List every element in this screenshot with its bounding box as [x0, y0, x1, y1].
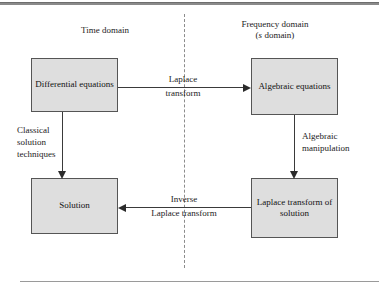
node-laplace-transform-of-solution: Laplace transform of solution	[251, 178, 338, 238]
node-differential-equations: Differential equations	[31, 58, 118, 112]
edge-label-classical-line1: Classical	[17, 125, 50, 135]
edge-label-algebraic-manipulation: Algebraic manipulation	[302, 130, 350, 154]
edge-label-laplace-transform: Laplace . transform	[141, 73, 225, 99]
node-laplace-transform-of-solution-label: Laplace transform of solution	[252, 197, 337, 220]
frequency-domain-header: Frequency domain (s domain)	[205, 19, 345, 41]
edge-label-laplace-transform-below: transform	[141, 87, 225, 99]
edge-label-inverse-laplace-transform: Inverse . Laplace transform	[124, 193, 244, 219]
top-rule-divider	[0, 2, 379, 5]
edge-classical-solution-line	[62, 112, 63, 172]
edge-label-classical-solution-techniques: Classical solution techniques	[17, 124, 56, 160]
edge-label-classical-line2: solution	[17, 137, 46, 147]
node-algebraic-equations: Algebraic equations	[251, 58, 338, 115]
node-solution-label: Solution	[59, 200, 90, 212]
edge-label-classical-line3: techniques	[17, 149, 56, 159]
frequency-domain-label: Frequency domain	[241, 19, 308, 29]
node-differential-equations-label: Differential equations	[35, 79, 114, 91]
node-solution: Solution	[31, 178, 118, 234]
time-domain-header: Time domain	[55, 25, 155, 36]
laplace-transform-flow-diagram: Time domain Frequency domain (s domain) …	[0, 0, 379, 289]
s-domain-sublabel: (s domain)	[256, 30, 295, 40]
edge-algebraic-manipulation-line	[294, 115, 295, 172]
bottom-rule-divider	[20, 281, 379, 282]
domain-separator-dashed-line	[184, 14, 185, 268]
edge-label-laplace-transform-above: Laplace	[141, 73, 225, 85]
edge-label-inverse-above: Inverse	[124, 193, 244, 205]
edge-label-inverse-below: Laplace transform	[124, 207, 244, 219]
edge-label-manipulation-line2: manipulation	[302, 143, 350, 153]
time-domain-label: Time domain	[81, 25, 129, 35]
edge-label-manipulation-line1: Algebraic	[302, 131, 337, 141]
node-algebraic-equations-label: Algebraic equations	[258, 81, 330, 93]
arrow-down-icon-classical-solution	[58, 171, 66, 179]
arrow-down-icon-algebraic-manipulation	[290, 171, 298, 179]
arrow-right-icon-laplace-transform	[243, 84, 251, 92]
